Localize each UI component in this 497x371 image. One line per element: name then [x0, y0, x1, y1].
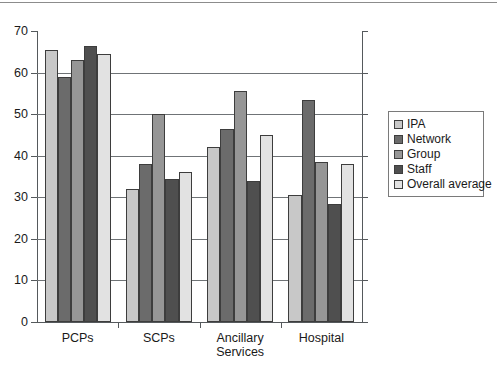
- legend-swatch-icon: [394, 135, 403, 144]
- bar-group: [118, 31, 199, 322]
- x-tick: [200, 322, 201, 328]
- plot-area: 010203040506070: [37, 31, 362, 322]
- page-top-rule: [0, 2, 497, 3]
- bar: [207, 147, 220, 322]
- bar: [234, 91, 247, 322]
- y-tick-label-10: 10: [14, 274, 28, 287]
- bar: [247, 181, 260, 322]
- legend-swatch-icon: [394, 180, 403, 189]
- legend-item-label: IPA: [407, 118, 425, 130]
- bar: [97, 54, 110, 322]
- x-axis-label: SCPs: [118, 331, 199, 345]
- y-tick-right-50: [362, 114, 368, 115]
- y-tick-label-50: 50: [14, 108, 28, 121]
- bar: [288, 195, 301, 322]
- bar: [71, 60, 84, 322]
- bar: [45, 50, 58, 322]
- legend-item-label: Staff: [407, 163, 431, 175]
- y-tick-right-70: [362, 31, 368, 32]
- x-axis-label: PCPs: [37, 331, 118, 345]
- bar-group: [37, 31, 118, 322]
- y-tick-right-40: [362, 156, 368, 157]
- bar: [84, 46, 97, 322]
- x-tick: [281, 322, 282, 328]
- bar: [315, 162, 328, 322]
- bar-group: [200, 31, 281, 322]
- legend-item: Group: [394, 147, 479, 161]
- y-tick-label-60: 60: [14, 66, 28, 79]
- bar: [58, 77, 71, 322]
- plot-right-border: [362, 31, 363, 323]
- x-axis-label: Ancillary Services: [200, 331, 281, 359]
- bar-group: [281, 31, 362, 322]
- y-tick-right-20: [362, 239, 368, 240]
- y-tick-right-30: [362, 197, 368, 198]
- bar: [152, 114, 165, 322]
- y-tick-label-30: 30: [14, 191, 28, 204]
- bar: [260, 135, 273, 322]
- chart-legend: IPANetworkGroupStaffOverall average: [388, 111, 484, 197]
- y-tick-right-10: [362, 280, 368, 281]
- legend-swatch-icon: [394, 120, 403, 129]
- y-tick-right-60: [362, 73, 368, 74]
- legend-item: Overall average: [394, 177, 479, 191]
- legend-item: Staff: [394, 162, 479, 176]
- y-tick-label-0: 0: [21, 316, 28, 329]
- bar: [302, 100, 315, 322]
- y-tick-label-20: 20: [14, 233, 28, 246]
- x-axis-label: Hospital: [281, 331, 362, 345]
- y-tick-label-70: 70: [14, 25, 28, 38]
- legend-item-label: Group: [407, 148, 440, 160]
- y-tick-label-40: 40: [14, 149, 28, 162]
- legend-swatch-icon: [394, 165, 403, 174]
- legend-item: Network: [394, 132, 479, 146]
- bar: [139, 164, 152, 322]
- bar: [220, 129, 233, 322]
- bar: [341, 164, 354, 322]
- y-tick-0: [31, 322, 37, 323]
- legend-item-label: Network: [407, 133, 451, 145]
- bar: [165, 179, 178, 322]
- legend-swatch-icon: [394, 150, 403, 159]
- legend-item: IPA: [394, 117, 479, 131]
- bar: [179, 172, 192, 322]
- legend-item-label: Overall average: [407, 178, 492, 190]
- chart-figure: 010203040506070 IPANetworkGroupStaffOver…: [0, 0, 497, 371]
- bar: [126, 189, 139, 322]
- bar: [328, 204, 341, 322]
- y-tick-right-0: [362, 322, 368, 323]
- x-tick: [118, 322, 119, 328]
